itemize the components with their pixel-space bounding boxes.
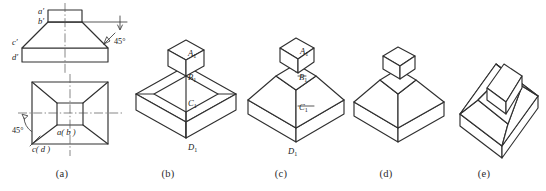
front-angle-label: 45° [114,37,125,46]
caption-d: (d) [366,168,406,179]
caption-a: (a) [42,168,82,179]
label-d-prime: d′ [12,52,18,62]
figure-a-orthographic-views: a′ b′ c′ d′ 45° [0,0,140,160]
figure-d-isometric-frustum-plain [348,40,450,160]
figure-b-boss [168,40,204,76]
figure-c-boss [280,38,314,73]
label-D1: D1 [187,142,197,153]
figure-c-isometric-frustum-labelled: A1 B1 C1 D1 [242,14,352,162]
front-view-geometry [22,3,108,74]
label-a-prime: a′ [38,6,44,16]
label-a-b: a( b ) [57,127,76,137]
figure-sheet: a′ b′ c′ d′ 45° [0,0,546,191]
label-c-d: c( d ) [32,144,50,154]
caption-e: (e) [464,168,504,179]
label-c-prime: c′ [12,37,18,47]
label-b-prime: b′ [38,16,44,26]
caption-c: (c) [261,168,301,179]
top-angle-arc-arrow [22,115,27,120]
figure-d-boss [383,47,415,79]
figure-b-isometric-slab: A1 B1 C1 D1 [130,14,242,162]
label-D1: D1 [287,146,297,157]
caption-b: (b) [148,168,188,179]
top-angle-label: 45° [12,126,23,135]
top-angle-arc [24,118,32,132]
figure-e-isometric-rotated [452,38,546,160]
